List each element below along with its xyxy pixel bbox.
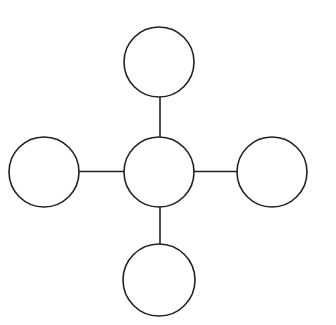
node-center xyxy=(124,137,194,207)
nodes xyxy=(9,27,307,316)
node-left xyxy=(9,137,79,207)
node-bottom xyxy=(123,244,195,316)
star-diagram xyxy=(0,0,336,325)
node-right xyxy=(237,137,307,207)
node-top xyxy=(124,27,194,97)
